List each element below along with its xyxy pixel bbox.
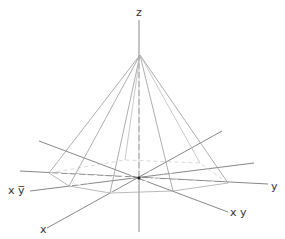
center-point [137,176,140,179]
x-axis [47,131,222,228]
axes [20,20,268,232]
x-ybar-axis [30,163,254,191]
xy-axis [39,141,228,212]
label-x: x [40,223,47,236]
y-axis [20,171,268,184]
label-y: y [271,180,278,193]
label-z: z [136,6,142,19]
label-x-ybar: x y̅ [8,184,25,197]
pyramid-diagram: z y x x y x y̅ [0,0,285,239]
label-xy: x y [230,206,247,219]
